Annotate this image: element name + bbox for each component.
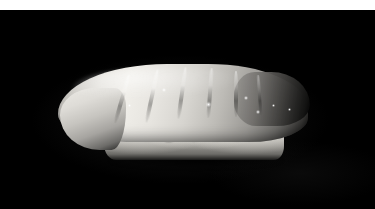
specular-highlight <box>272 104 275 107</box>
fish-score-line <box>234 71 238 117</box>
specular-highlight <box>288 108 291 111</box>
specular-highlight <box>244 96 248 100</box>
nigiri-sushi-piece <box>58 58 308 168</box>
photograph-nigiri-sushi: A single piece of nigiri sushi photograp… <box>0 10 375 209</box>
photo-viewport: A single piece of nigiri sushi photograp… <box>0 0 375 209</box>
image-caption: A single piece of nigiri sushi photograp… <box>0 10 1 11</box>
specular-highlight <box>128 104 131 107</box>
specular-highlight <box>256 110 260 114</box>
top-white-band <box>0 0 375 10</box>
specular-highlight <box>206 102 211 107</box>
specular-highlight <box>162 88 166 92</box>
